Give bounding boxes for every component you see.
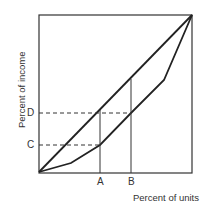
x-tick-b: B: [128, 177, 135, 187]
y-axis-label: Percent of income: [17, 45, 27, 135]
y-tick-c: C: [27, 140, 34, 150]
y-tick-d: D: [27, 108, 34, 118]
x-tick-a: A: [97, 177, 104, 187]
x-axis-label: Percent of units: [133, 193, 199, 203]
equality-line: [39, 15, 192, 172]
